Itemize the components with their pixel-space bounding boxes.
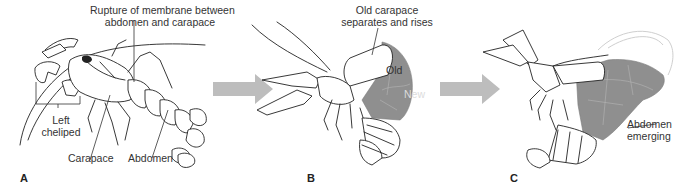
label-carapace: Carapace bbox=[68, 152, 114, 164]
panel-letter-c: C bbox=[510, 172, 518, 184]
label-emerging-line2: emerging bbox=[627, 130, 671, 142]
label-separates-line2: separates and rises bbox=[341, 16, 433, 28]
crayfish-emerging-illustration bbox=[458, 0, 690, 188]
label-rupture-line2: abdomen and carapace bbox=[105, 16, 215, 28]
label-cheliped-line1: Left bbox=[52, 114, 70, 126]
label-left-cheliped: Left cheliped bbox=[38, 114, 84, 138]
panel-letter-b: B bbox=[307, 172, 315, 184]
panel-c: Abdomen emerging C bbox=[458, 0, 690, 188]
panel-b: Old carapace separates and rises Old New… bbox=[232, 0, 442, 188]
label-abdomen-emerging: Abdomen emerging bbox=[627, 118, 672, 142]
label-abdomen: Abdomen bbox=[128, 152, 173, 164]
label-cheliped-line2: cheliped bbox=[41, 126, 80, 138]
label-new: New bbox=[404, 88, 425, 100]
panel-a: Rupture of membrane between abdomen and … bbox=[0, 0, 215, 188]
label-rupture-line1: Rupture of membrane between bbox=[90, 4, 235, 16]
label-rupture-membrane: Rupture of membrane between abdomen and … bbox=[90, 4, 230, 28]
label-separates-line1: Old carapace bbox=[356, 4, 418, 16]
label-old: Old bbox=[386, 64, 402, 76]
panel-letter-a: A bbox=[20, 172, 28, 184]
label-old-carapace-separates: Old carapace separates and rises bbox=[332, 4, 442, 28]
label-emerging-line1: Abdomen bbox=[627, 118, 672, 130]
